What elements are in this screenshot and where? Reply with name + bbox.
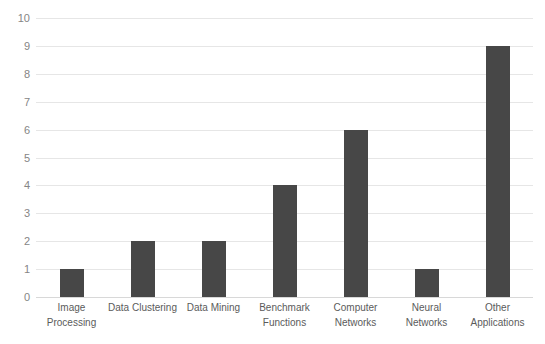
x-axis-category-label-line: Other xyxy=(452,300,544,315)
gridline xyxy=(36,158,533,159)
y-axis-tick-label: 6 xyxy=(0,124,30,135)
gridline xyxy=(36,18,533,19)
y-axis-tick-label: 5 xyxy=(0,152,30,163)
y-axis-tick-label: 1 xyxy=(0,264,30,275)
x-axis-category-label: OtherApplications xyxy=(452,300,544,330)
x-axis-category-label-line: Processing xyxy=(26,315,118,330)
y-axis-tick-label: 3 xyxy=(0,208,30,219)
bar xyxy=(202,241,226,297)
gridline xyxy=(36,74,533,75)
y-axis-tick-label: 2 xyxy=(0,236,30,247)
y-axis-tick-label: 10 xyxy=(0,13,30,24)
gridline xyxy=(36,130,533,131)
y-axis-tick-label: 7 xyxy=(0,96,30,107)
gridline xyxy=(36,102,533,103)
gridline xyxy=(36,297,533,298)
x-axis: ImageProcessingData ClusteringData Minin… xyxy=(36,300,533,344)
plot-area xyxy=(36,18,533,297)
bar xyxy=(273,185,297,297)
bar xyxy=(60,269,84,297)
bar xyxy=(415,269,439,297)
bar xyxy=(344,130,368,297)
x-axis-category-label-line: Applications xyxy=(452,315,544,330)
y-axis-tick-label: 8 xyxy=(0,68,30,79)
y-axis: 109876543210 xyxy=(0,18,30,297)
bar xyxy=(486,46,510,297)
y-axis-tick-label: 9 xyxy=(0,40,30,51)
gridline xyxy=(36,46,533,47)
y-axis-tick-label: 4 xyxy=(0,180,30,191)
bar xyxy=(131,241,155,297)
bar-chart: 109876543210 ImageProcessingData Cluster… xyxy=(0,0,545,344)
